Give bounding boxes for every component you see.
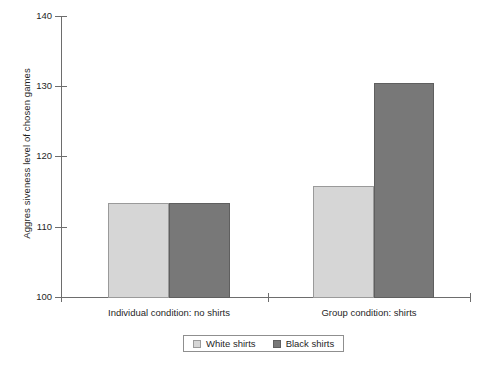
x-category-label-group: Group condition: shirts bbox=[263, 307, 475, 318]
x-tick-mark-middle bbox=[268, 293, 269, 302]
y-tick-mark-130 bbox=[55, 86, 67, 87]
x-tick-mark-left bbox=[61, 293, 62, 302]
legend-swatch-white-shirts bbox=[193, 340, 201, 348]
bar-group-white-shirts bbox=[313, 186, 374, 298]
x-tick-mark-right bbox=[470, 293, 471, 302]
legend-swatch-black-shirts bbox=[273, 340, 281, 348]
y-tick-label-110: 110 bbox=[10, 221, 52, 232]
y-tick-label-140: 140 bbox=[10, 10, 52, 21]
legend-label-black-shirts: Black shirts bbox=[286, 338, 335, 349]
legend-label-white-shirts: White shirts bbox=[206, 338, 256, 349]
x-category-label-individual: Individual condition: no shirts bbox=[59, 307, 279, 318]
bar-chart: Aggres siveness level of chosen games 14… bbox=[0, 0, 488, 368]
bar-individual-white-shirts bbox=[108, 203, 169, 298]
legend-entry-black-shirts: Black shirts bbox=[273, 338, 335, 349]
y-tick-label-120: 120 bbox=[10, 150, 52, 161]
y-tick-label-100: 100 bbox=[10, 291, 52, 302]
y-tick-mark-120 bbox=[55, 156, 67, 157]
y-tick-label-130: 130 bbox=[10, 80, 52, 91]
legend-entry-white-shirts: White shirts bbox=[193, 338, 256, 349]
y-tick-mark-140 bbox=[55, 16, 67, 17]
bar-group-black-shirts bbox=[374, 83, 434, 298]
chart-legend: White shirts Black shirts bbox=[183, 335, 344, 352]
bar-individual-black-shirts bbox=[169, 203, 230, 298]
y-tick-mark-110 bbox=[55, 227, 67, 228]
y-axis-line bbox=[61, 16, 62, 298]
